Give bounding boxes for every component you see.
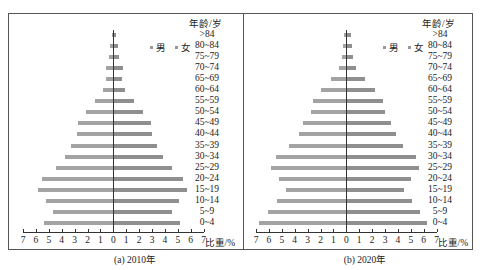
age-group-label: 65~69 [418, 73, 462, 83]
x-tick [178, 229, 179, 232]
bar-female [114, 155, 162, 159]
bar-female [114, 33, 116, 37]
bar-female [114, 188, 187, 192]
x-tick-label: 6 [263, 235, 275, 245]
x-tick [437, 229, 438, 232]
x-tick [372, 229, 373, 232]
x-tick-label: 2 [315, 235, 327, 245]
bar-male [106, 66, 114, 70]
bar-male [311, 110, 346, 114]
x-axis-unit-label: 比重/% [205, 235, 236, 249]
bar-female [347, 99, 383, 103]
legend-female-swatch [175, 46, 178, 49]
bar-male [44, 221, 114, 225]
x-tick [411, 229, 412, 232]
bar-female [114, 55, 119, 59]
x-tick-label: 4 [289, 235, 301, 245]
age-group-label: 70~74 [418, 62, 462, 72]
bar-female [114, 199, 179, 203]
x-tick [321, 229, 322, 232]
x-tick [346, 229, 347, 232]
x-tick [333, 229, 334, 232]
bar-male [271, 166, 346, 170]
bar-male [276, 155, 346, 159]
x-tick-label: 7 [17, 235, 29, 245]
x-tick-label: 6 [185, 235, 197, 245]
age-group-label: 20~24 [185, 173, 229, 183]
bar-female [114, 66, 122, 70]
age-group-label: 20~24 [418, 173, 462, 183]
bar-female [347, 155, 415, 159]
age-group-label: 30~34 [418, 151, 462, 161]
x-tick [126, 229, 127, 232]
legend-male-label: 男 [389, 40, 399, 54]
age-axis-title: 年龄/岁 [189, 16, 222, 30]
bar-male [71, 144, 114, 148]
bar-female [114, 77, 122, 81]
age-group-label: 60~64 [418, 84, 462, 94]
bar-male [303, 121, 346, 125]
bar-male [112, 33, 113, 37]
bar-male [86, 110, 114, 114]
legend-male-swatch [150, 46, 153, 49]
age-group-label: 50~54 [185, 106, 229, 116]
x-tick [295, 229, 296, 232]
age-group-label: 0~4 [418, 217, 462, 227]
x-tick-label: 4 [56, 235, 68, 245]
bar-female [114, 166, 171, 170]
x-tick [204, 229, 205, 232]
bar-female [347, 132, 395, 136]
bar-female [347, 210, 419, 214]
bar-male [56, 166, 113, 170]
bar-male [339, 66, 346, 70]
x-tick [100, 229, 101, 232]
age-group-label: 70~74 [185, 62, 229, 72]
age-group-label: 30~34 [185, 151, 229, 161]
bar-male [78, 121, 113, 125]
age-group-label: 5~9 [418, 206, 462, 216]
x-tick-label: 3 [302, 235, 314, 245]
bar-male [344, 33, 346, 37]
bar-male [289, 144, 346, 148]
x-tick [23, 229, 24, 232]
bar-female [347, 144, 403, 148]
x-tick [191, 229, 192, 232]
x-tick-label: 5 [405, 235, 417, 245]
bar-female [114, 144, 157, 148]
bar-female [347, 33, 351, 37]
legend-female-label: 女 [414, 40, 424, 54]
bar-male [42, 177, 113, 181]
bar-male [53, 210, 113, 214]
bar-male [313, 99, 347, 103]
x-tick [139, 229, 140, 232]
bar-female [114, 44, 117, 48]
bar-male [65, 155, 113, 159]
age-group-label: 50~54 [418, 106, 462, 116]
bar-male [342, 55, 347, 59]
bar-male [103, 88, 113, 92]
bar-male [299, 132, 347, 136]
age-group-label: 10~14 [185, 195, 229, 205]
x-tick [256, 229, 257, 232]
x-tick-label: 0 [107, 235, 119, 245]
x-tick [88, 229, 89, 232]
bar-female [347, 199, 412, 203]
x-tick [385, 229, 386, 232]
bar-male [343, 44, 346, 48]
legend: 男女 [150, 40, 191, 54]
x-tick [36, 229, 37, 232]
x-axis-line [256, 232, 437, 233]
x-tick [398, 229, 399, 232]
x-tick [424, 229, 425, 232]
caption-2010: (a) 2010年 [75, 252, 195, 266]
x-tick-label: 2 [82, 235, 94, 245]
x-axis-unit-label: 比重/% [438, 235, 469, 249]
legend-male-swatch [383, 46, 386, 49]
x-tick-label: 2 [366, 235, 378, 245]
age-group-label: 0~4 [185, 217, 229, 227]
x-tick-label: 1 [327, 235, 339, 245]
legend: 男女 [383, 40, 424, 54]
age-group-label: 35~39 [185, 140, 229, 150]
age-group-label: 15~19 [418, 184, 462, 194]
age-group-label: 80~84 [185, 40, 229, 50]
